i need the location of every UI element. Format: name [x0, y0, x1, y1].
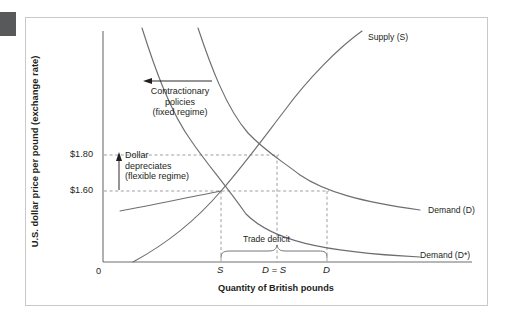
- x-tick-label-D-equals-S: D = S: [262, 264, 286, 275]
- demand-curve: [198, 28, 420, 210]
- demand-curve-label: Demand (D): [428, 205, 475, 215]
- supply-curve: [133, 31, 362, 262]
- economics-supply-demand-chart: [0, 0, 511, 324]
- supply-curve-label: Supply (S): [368, 32, 408, 42]
- y-axis-title: U.S. dollar price per pound (exchange ra…: [29, 52, 40, 252]
- depreciation-annotation: Dollar depreciates (flexible regime): [125, 150, 215, 182]
- depreciation-line-2: depreciates: [125, 161, 215, 172]
- y-tick-label-180: $1.80: [70, 149, 93, 159]
- contractionary-annotation: Contractionary policies (fixed regime): [134, 86, 226, 118]
- x-tick-label-D: D: [323, 264, 330, 275]
- trade-deficit-brace: [221, 245, 327, 258]
- contractionary-line-3: (fixed regime): [134, 107, 226, 118]
- y-tick-label-160: $1.60: [70, 185, 93, 195]
- demand-star-curve-label: Demand (D*): [420, 250, 470, 260]
- demand-star-curve: [142, 28, 420, 257]
- depreciation-line-3: (flexible regime): [125, 171, 215, 182]
- x-axis-title: Quantity of British pounds: [218, 283, 334, 293]
- contractionary-line-1: Contractionary: [134, 86, 226, 97]
- trade-deficit-label: Trade deficit: [243, 234, 290, 244]
- contractionary-shift-arrow: [143, 78, 212, 84]
- x-tick-label-S: S: [217, 264, 223, 275]
- axes: [103, 31, 472, 262]
- origin-label: 0: [96, 266, 101, 276]
- depreciation-arrow: [116, 152, 122, 190]
- figure-stage: U.S. dollar price per pound (exchange ra…: [0, 0, 511, 324]
- depreciation-line-1: Dollar: [125, 150, 215, 161]
- contractionary-line-2: policies: [134, 97, 226, 108]
